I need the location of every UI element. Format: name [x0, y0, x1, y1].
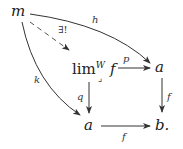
node-limit: limW f [72, 61, 115, 77]
label-f-bottom: f [122, 132, 126, 142]
node-a-right: a [155, 60, 164, 75]
node-a-bottom: a [84, 118, 93, 133]
label-k: k [34, 75, 40, 85]
label-q: q [77, 92, 83, 102]
limit-prefix: lim [72, 60, 96, 78]
pullback-corner-icon: ⌟ [98, 74, 102, 83]
label-h: h [92, 15, 98, 25]
label-unique: ∃! [58, 25, 67, 35]
label-f-right: f [167, 92, 171, 102]
node-m: m [11, 4, 25, 19]
label-p: p [123, 54, 129, 64]
limit-arg: f [110, 60, 116, 78]
limit-superscript: W [96, 60, 105, 70]
arrow-h [30, 14, 150, 63]
node-b: b. [155, 118, 169, 133]
